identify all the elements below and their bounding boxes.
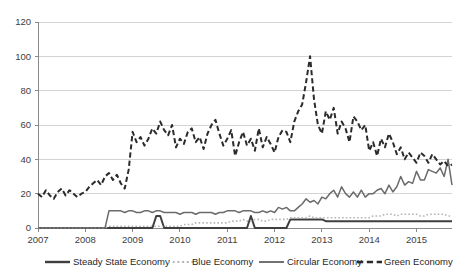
x-tick-label-2007: 2007	[27, 234, 48, 245]
chart-canvas: 020406080100120 200720082009201020112012…	[0, 0, 467, 276]
x-axis-tick-labels: 200720082009201020112012201320142015	[27, 234, 427, 245]
y-tick-label-60: 60	[20, 119, 31, 130]
y-tick-label-120: 120	[15, 16, 31, 27]
x-tick-label-2009: 2009	[122, 234, 143, 245]
x-tick-label-2008: 2008	[75, 234, 96, 245]
y-tick-label-20: 20	[20, 188, 31, 199]
series-line-green-economy	[38, 56, 452, 198]
x-tick-label-2011: 2011	[217, 234, 237, 245]
legend-label-circular-economy[interactable]: Circular Economy	[287, 256, 362, 267]
x-tick-label-2010: 2010	[169, 234, 190, 245]
data-series-group	[38, 56, 452, 228]
series-line-steady-state-economy	[38, 216, 452, 228]
gridlines	[38, 22, 452, 228]
x-tick-label-2014: 2014	[359, 234, 380, 245]
x-tick-label-2012: 2012	[264, 234, 285, 245]
x-tick-label-2013: 2013	[311, 234, 332, 245]
legend-label-blue-economy[interactable]: Blue Economy	[192, 256, 254, 267]
legend-label-green-economy[interactable]: Green Economy	[384, 256, 453, 267]
chart-axes	[35, 22, 453, 232]
y-axis-tick-labels: 020406080100120	[15, 16, 31, 233]
legend-label-steady-state-economy[interactable]: Steady State Economy	[73, 256, 170, 267]
line-chart-figure: 020406080100120 200720082009201020112012…	[0, 0, 467, 276]
chart-legend: Steady State EconomyBlue EconomyCircular…	[45, 256, 453, 267]
y-tick-label-80: 80	[20, 85, 31, 96]
x-tick-label-2015: 2015	[406, 234, 427, 245]
y-tick-label-0: 0	[26, 222, 31, 233]
y-tick-label-100: 100	[15, 51, 31, 62]
y-tick-label-40: 40	[20, 154, 31, 165]
